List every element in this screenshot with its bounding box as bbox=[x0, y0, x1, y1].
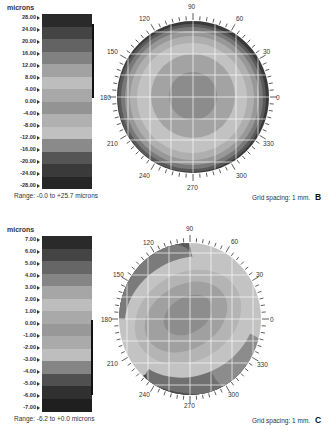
angle-label-120: 120 bbox=[139, 15, 150, 22]
angle-label-240: 240 bbox=[139, 172, 150, 179]
angle-label-60: 60 bbox=[236, 15, 244, 22]
angle-label-300: 300 bbox=[228, 391, 239, 398]
angle-label-210: 210 bbox=[107, 140, 118, 147]
polar-map-b: 90 60 30 0 330 300 270 240 210 180 150 1… bbox=[0, 0, 336, 215]
panel-b: microns 28.00 24.00 20.00 16.00 12.00 8.… bbox=[0, 0, 336, 215]
angle-label-270: 270 bbox=[187, 184, 198, 191]
angle-label-0: 0 bbox=[276, 94, 280, 101]
angle-label-180: 180 bbox=[100, 94, 111, 101]
angle-label-90: 90 bbox=[188, 3, 196, 10]
angle-label-180: 180 bbox=[101, 316, 112, 323]
range-text: Range: -0.0 to +25.7 microns bbox=[14, 192, 98, 199]
panel-c: microns 7.00 6.00 5.00 4.00 3.00 2.00 1.… bbox=[0, 222, 336, 439]
angle-label-150: 150 bbox=[113, 271, 124, 278]
angle-label-270: 270 bbox=[184, 402, 195, 409]
grid-spacing-text: Grid spacing: 1 mm. bbox=[252, 417, 310, 424]
angle-label-60: 60 bbox=[231, 238, 239, 245]
angle-label-90: 90 bbox=[186, 225, 194, 232]
angle-label-330: 330 bbox=[257, 361, 268, 368]
angle-label-0: 0 bbox=[270, 316, 274, 323]
angle-label-330: 330 bbox=[263, 140, 274, 147]
angle-label-210: 210 bbox=[107, 360, 118, 367]
angle-label-150: 150 bbox=[107, 48, 118, 55]
panel-letter: C bbox=[315, 415, 321, 425]
panel-letter: B bbox=[315, 192, 321, 202]
range-text: Range: -6.2 to +0.0 microns bbox=[14, 415, 94, 422]
angle-label-30: 30 bbox=[256, 271, 264, 278]
angle-label-300: 300 bbox=[236, 172, 247, 179]
angle-label-120: 120 bbox=[143, 239, 154, 246]
grid-spacing-text: Grid spacing: 1 mm. bbox=[252, 194, 310, 201]
angle-label-30: 30 bbox=[263, 48, 271, 55]
angle-label-240: 240 bbox=[139, 391, 150, 398]
polar-map-c: 90 60 30 0 330 300 270 240 210 180 150 1… bbox=[0, 222, 336, 439]
